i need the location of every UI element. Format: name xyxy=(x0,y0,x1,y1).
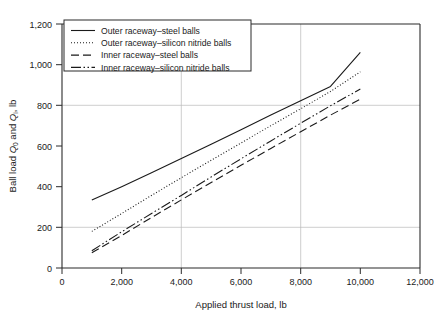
legend-label-inner-steel: Inner raceway–steel balls xyxy=(101,50,198,60)
legend-label-outer-steel: Outer raceway–steel balls xyxy=(101,26,200,36)
ytick-label-400: 400 xyxy=(37,182,52,192)
ytick-label-200: 200 xyxy=(37,223,52,233)
xtick-label-12000: 12,000 xyxy=(406,277,434,287)
legend-label-outer-silicon-nitride: Outer raceway–silicon nitride balls xyxy=(101,38,231,48)
legend-label-inner-silicon-nitride: Inner raceway–silicon nitride balls xyxy=(101,63,230,73)
ytick-label-800: 800 xyxy=(37,101,52,111)
chart-figure: 0 200 400 600 800 1,000 1,200 0 2,000 4,… xyxy=(0,0,436,320)
ytick-label-0: 0 xyxy=(47,264,52,274)
y-axis-title-mid: and xyxy=(7,121,18,142)
xtick-label-2000: 2,000 xyxy=(110,277,133,287)
y-axis-title-prefix: Ball load xyxy=(7,153,18,192)
legend: Outer raceway–steel balls Outer raceway–… xyxy=(64,20,251,73)
xtick-label-0: 0 xyxy=(59,277,64,287)
x-axis-title: Applied thrust load, lb xyxy=(195,299,286,310)
xtick-label-8000: 8,000 xyxy=(289,277,312,287)
xtick-label-6000: 6,000 xyxy=(230,277,253,287)
xtick-label-4000: 4,000 xyxy=(170,277,193,287)
xtick-label-10000: 10,000 xyxy=(347,277,375,287)
ytick-label-1000: 1,000 xyxy=(29,60,52,70)
y-axis-title-suffix: , lb xyxy=(7,100,18,113)
ytick-label-600: 600 xyxy=(37,142,52,152)
ytick-label-1200: 1,200 xyxy=(29,20,52,30)
